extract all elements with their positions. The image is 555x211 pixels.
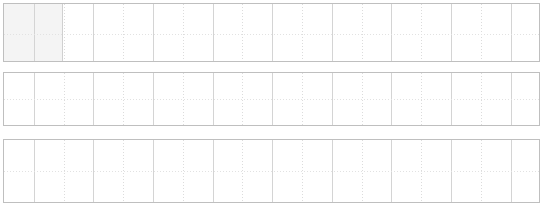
grid-surface-top [4, 4, 539, 61]
gridline-horizontal-midline [4, 34, 539, 35]
gridline-vertical [213, 4, 214, 61]
gridline-vertical [272, 4, 273, 61]
gridline-vertical [34, 4, 35, 61]
gridline-vertical [183, 4, 184, 61]
grid-canvas [0, 0, 555, 211]
gridline-horizontal-midline [4, 171, 539, 172]
gridline-vertical [123, 4, 124, 61]
panel-middle[interactable] [3, 72, 540, 126]
gridline-vertical [511, 4, 512, 61]
panel-bottom[interactable] [3, 139, 540, 203]
gridline-vertical [93, 4, 94, 61]
gridline-vertical [362, 4, 363, 61]
gridline-vertical [451, 4, 452, 61]
grid-surface-bottom [4, 140, 539, 202]
gridline-vertical [481, 4, 482, 61]
gridline-horizontal-midline [4, 99, 539, 100]
panel-top[interactable] [3, 3, 540, 62]
gridline-vertical [421, 4, 422, 61]
gridline-vertical [391, 4, 392, 61]
gridline-vertical [302, 4, 303, 61]
grid-surface-middle [4, 73, 539, 125]
gridline-vertical [332, 4, 333, 61]
gridline-vertical [153, 4, 154, 61]
gridline-vertical [242, 4, 243, 61]
gridline-vertical [64, 4, 65, 61]
